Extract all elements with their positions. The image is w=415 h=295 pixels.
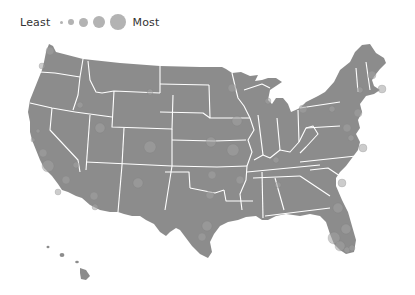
data-bubble — [343, 124, 351, 132]
data-bubble — [273, 157, 279, 163]
data-bubble — [349, 245, 355, 251]
hawaii-island-oahu — [60, 253, 65, 257]
hawaii-island-big — [80, 268, 90, 280]
data-bubble — [36, 129, 40, 133]
data-bubble — [333, 203, 343, 213]
data-bubble — [265, 98, 271, 104]
data-bubble — [341, 224, 351, 234]
data-bubble — [39, 63, 45, 69]
data-bubble — [42, 160, 54, 172]
data-bubble — [206, 191, 214, 199]
us-bubble-map — [0, 0, 415, 295]
data-bubble — [228, 84, 236, 92]
data-bubble — [144, 141, 156, 153]
data-bubble — [359, 144, 367, 152]
data-bubble — [55, 189, 61, 195]
data-bubble — [275, 182, 281, 188]
data-bubble — [92, 204, 98, 210]
data-bubble — [299, 105, 307, 113]
data-bubble — [335, 241, 345, 251]
data-bubble — [95, 123, 105, 133]
data-bubble — [378, 85, 386, 93]
data-bubble — [206, 137, 216, 147]
data-bubble — [232, 116, 242, 126]
data-bubble — [198, 233, 206, 241]
data-bubble — [338, 179, 346, 187]
data-bubble — [31, 138, 35, 142]
data-bubble — [46, 47, 54, 55]
hawaii-island-maui — [75, 261, 79, 263]
data-bubble — [227, 144, 239, 156]
data-bubble — [202, 221, 212, 231]
data-bubble — [368, 71, 376, 79]
data-bubble — [77, 102, 83, 108]
data-bubble — [357, 87, 363, 93]
data-bubble — [39, 149, 47, 157]
data-bubble — [329, 106, 335, 112]
data-bubble — [147, 89, 153, 95]
data-bubble — [236, 176, 244, 184]
data-bubble — [90, 192, 98, 200]
data-bubble — [133, 178, 143, 188]
hawaii-island-kauai — [47, 246, 50, 248]
data-bubble — [354, 109, 362, 117]
data-bubble — [73, 162, 79, 168]
data-bubble — [348, 135, 354, 141]
data-bubble — [208, 171, 216, 179]
data-bubble — [62, 176, 70, 184]
